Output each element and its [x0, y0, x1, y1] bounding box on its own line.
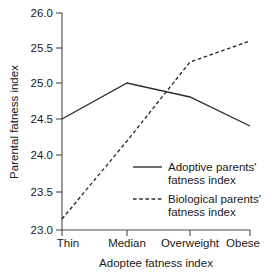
- x-tick-label-obese: Obese: [226, 237, 260, 249]
- chart-figure: 26.0 25.5 25.0 24.5 24.0 23.5 23.0 Thin …: [0, 0, 276, 277]
- y-tick-label-24-5: 24.5: [31, 113, 53, 125]
- y-tick-label-23-5: 23.5: [31, 186, 53, 198]
- y-tick-label-25-0: 25.0: [31, 77, 53, 89]
- y-tick-label-25-5: 25.5: [31, 42, 53, 54]
- y-tick-label-24-0: 24.0: [31, 149, 53, 161]
- x-axis-title: Adoptee fatness index: [99, 257, 213, 269]
- x-tick-label-overweight: Overweight: [161, 237, 220, 249]
- x-tick-label-thin: Thin: [57, 237, 79, 249]
- line-chart: 26.0 25.5 25.0 24.5 24.0 23.5 23.0 Thin …: [0, 0, 276, 277]
- series-line-adoptive: [62, 83, 250, 126]
- y-tick-label-23-0: 23.0: [31, 224, 53, 236]
- legend-label-adoptive-line1: Adoptive parents': [168, 161, 257, 173]
- legend-label-biological-line1: Biological parents': [168, 193, 261, 205]
- legend-label-adoptive-line2: fatness index: [168, 174, 236, 186]
- y-tick-label-26-0: 26.0: [31, 7, 53, 19]
- legend-label-biological-line2: fatness index: [168, 206, 236, 218]
- chart-legend: Adoptive parents' fatness index Biologic…: [133, 161, 261, 218]
- y-axis-title: Parental fatness index: [8, 65, 20, 179]
- x-tick-label-median: Median: [108, 237, 146, 249]
- page-edge-artifact: [0, 269, 276, 277]
